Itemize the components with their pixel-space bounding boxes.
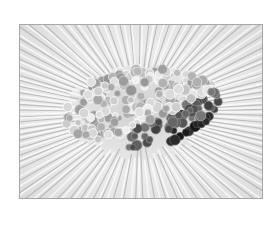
embroidery-photo: [19, 24, 263, 199]
embroidery-image: [20, 25, 262, 198]
